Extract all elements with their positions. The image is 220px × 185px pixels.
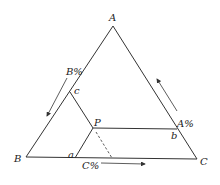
edge-ac: [113, 26, 197, 159]
a-percent-arrow-icon: [157, 79, 177, 111]
vertex-label-c: C: [200, 156, 208, 167]
vertex-label-a: A: [108, 12, 116, 23]
axis-label-c-percent: C%: [82, 160, 99, 171]
edge-bc: [26, 157, 197, 159]
c-percent-arrow-icon: [101, 163, 145, 164]
point-label-a: a: [68, 149, 74, 160]
axis-label-b-percent: B%: [65, 66, 83, 77]
line-p-to-a: [75, 128, 93, 158]
ternary-diagram: A B C B% A% C% P c b a: [0, 0, 220, 185]
point-label-c: c: [74, 85, 80, 96]
line-c-to-p: [70, 92, 93, 128]
vertex-label-b: B: [13, 153, 21, 164]
line-p-to-b: [93, 128, 177, 129]
dashed-line-p: [96, 132, 112, 158]
point-label-b: b: [171, 130, 177, 141]
edge-ab: [26, 26, 113, 157]
point-label-p: P: [93, 117, 101, 128]
axis-label-a-percent: A%: [176, 118, 194, 129]
